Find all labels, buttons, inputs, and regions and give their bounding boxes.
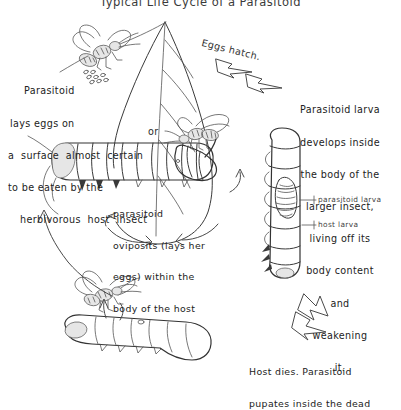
caption-line: Parasitoid larva [281, 105, 399, 116]
caption-line: living off its [281, 234, 399, 245]
caption-line: weakening [281, 331, 399, 342]
arrow-eggs-hatch [216, 59, 282, 93]
caption-line: a surface almost certain [8, 151, 147, 162]
caption-line: Host dies. Parasitoid [249, 367, 370, 378]
caption-line: oviposits (lays her [113, 241, 205, 252]
caption-line: lays eggs on [8, 119, 147, 130]
caption-line: parasitoid [113, 209, 205, 220]
host-dies-caption: Host dies. Parasitoid pupates inside the… [249, 346, 370, 410]
caption-line: body content [281, 266, 399, 277]
host-larva-label: host larva [318, 221, 358, 229]
caption-line: develops inside [281, 138, 399, 149]
caption-line: eggs) within the [113, 272, 205, 283]
page-title: Typical Life Cycle of a Parasitoid [0, 0, 401, 9]
caption-line: and [281, 299, 399, 310]
caption-line: body of the host [113, 304, 205, 315]
or-connector-word: or [148, 127, 159, 138]
caption-line: Parasitoid [8, 86, 147, 97]
diagram-canvas: .s{fill:none;stroke:#3a3a3a;stroke-width… [0, 0, 401, 410]
caption-line: pupates inside the dead [249, 399, 370, 410]
parasitoid-oviposits-caption: parasitoid oviposits (lays her eggs) wit… [113, 188, 205, 335]
caption-line: the body of the [281, 170, 399, 181]
parasitoid-larva-label: parasitoid larva [318, 196, 381, 204]
